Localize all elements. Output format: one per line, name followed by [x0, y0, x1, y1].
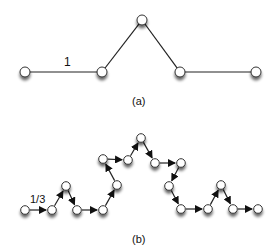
edge: [102, 21, 141, 72]
node: [177, 205, 186, 214]
edge: [223, 189, 230, 203]
panel-b-caption: (b): [132, 233, 145, 245]
node: [62, 182, 71, 191]
koch-curve-figure: 1 (a) 1/3 (b): [0, 0, 280, 250]
edge: [106, 164, 115, 180]
edge: [142, 20, 179, 71]
node: [73, 206, 82, 215]
segment-length-label-b: 1/3: [30, 193, 45, 205]
edge: [143, 142, 152, 157]
node: [113, 181, 122, 190]
node: [217, 181, 226, 190]
node: [177, 159, 186, 168]
node: [165, 182, 174, 191]
edge: [131, 143, 138, 156]
node: [251, 67, 261, 77]
edge: [105, 190, 114, 205]
panel-a-nodes: [20, 15, 261, 77]
node: [99, 206, 108, 215]
node: [124, 156, 133, 165]
node: [48, 206, 57, 215]
edge: [210, 190, 218, 204]
node: [97, 67, 107, 77]
edge: [108, 159, 122, 160]
node: [175, 67, 185, 77]
node: [20, 67, 30, 77]
panel-a-edges: [25, 20, 255, 72]
node: [137, 134, 146, 143]
panel-a-caption: (a): [132, 95, 145, 107]
edge: [68, 191, 74, 205]
edge: [172, 167, 179, 180]
segment-length-label-a: 1: [64, 55, 71, 69]
node: [21, 206, 30, 215]
node: [204, 205, 213, 214]
node: [137, 15, 147, 25]
node: [254, 205, 263, 214]
node: [151, 159, 160, 168]
node: [229, 205, 238, 214]
node: [99, 155, 108, 164]
edge: [171, 190, 178, 203]
diagram-svg: 1 (a) 1/3 (b): [0, 0, 280, 250]
panel-b-edges: [30, 142, 252, 210]
edge: [55, 191, 63, 205]
